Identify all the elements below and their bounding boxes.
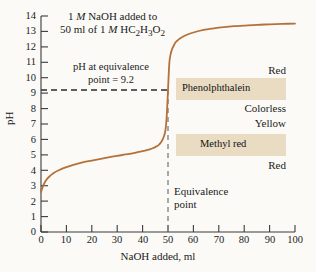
equivalence-point-label: Equivalence point xyxy=(174,185,228,211)
chart-title-line-1: 1 M NaOH added to xyxy=(60,10,165,23)
y-tick-label: 3 xyxy=(14,180,36,192)
chart-title: 1 M NaOH added to 50 ml of 1 M HC2H3O2 xyxy=(60,10,165,40)
y-axis-ticks xyxy=(41,16,48,232)
x-tick-label: 0 xyxy=(28,234,54,246)
equivalence-point-label-line-1: Equivalence xyxy=(174,185,228,198)
y-tick-label: 4 xyxy=(14,165,36,177)
phenolphthalein-band-label: Phenolphthalein xyxy=(182,82,250,94)
equivalence-annotation-line-1: pH at equivalence xyxy=(55,61,167,74)
x-tick-label: 90 xyxy=(257,234,283,246)
x-tick-label: 60 xyxy=(180,234,206,246)
y-tick-label: 9 xyxy=(14,87,36,99)
titration-curve-figure: 14 13 12 11 10 9 8 7 6 5 4 3 2 1 0 0 10 … xyxy=(0,0,316,272)
plot-canvas xyxy=(0,0,316,272)
y-tick-label: 7 xyxy=(14,118,36,130)
x-tick-label: 80 xyxy=(231,234,257,246)
y-tick-label: 5 xyxy=(14,149,36,161)
equivalence-point-label-line-2: point xyxy=(174,198,228,211)
x-tick-label: 20 xyxy=(79,234,105,246)
y-tick-label: 1 xyxy=(14,211,36,223)
x-tick-label: 40 xyxy=(130,234,156,246)
x-tick-label: 70 xyxy=(206,234,232,246)
y-tick-label: 12 xyxy=(14,41,36,53)
phenolphthalein-color-below-label: Colorless xyxy=(186,102,286,114)
y-tick-label: 14 xyxy=(14,10,36,22)
x-tick-label: 10 xyxy=(53,234,79,246)
x-tick-label: 30 xyxy=(104,234,130,246)
y-tick-label: 11 xyxy=(14,56,36,68)
x-tick-label: 100 xyxy=(282,234,308,246)
x-axis-title: NaOH added, ml xyxy=(0,250,316,262)
y-axis-title: pH xyxy=(3,101,15,135)
methyl-red-band-label: Methyl red xyxy=(200,138,246,150)
equivalence-ph-annotation: pH at equivalence point = 9.2 xyxy=(55,61,167,86)
y-tick-label: 13 xyxy=(14,25,36,37)
methyl-red-color-above-label: Yellow xyxy=(186,117,286,129)
phenolphthalein-color-above-label: Red xyxy=(186,64,286,76)
y-tick-label: 10 xyxy=(14,72,36,84)
y-tick-label: 8 xyxy=(14,103,36,115)
chart-title-line-2: 50 ml of 1 M HC2H3O2 xyxy=(60,23,165,39)
methyl-red-color-below-label: Red xyxy=(186,159,286,171)
y-tick-label: 6 xyxy=(14,134,36,146)
y-tick-label: 2 xyxy=(14,196,36,208)
equivalence-annotation-line-2: point = 9.2 xyxy=(55,74,167,87)
x-tick-label: 50 xyxy=(155,234,181,246)
